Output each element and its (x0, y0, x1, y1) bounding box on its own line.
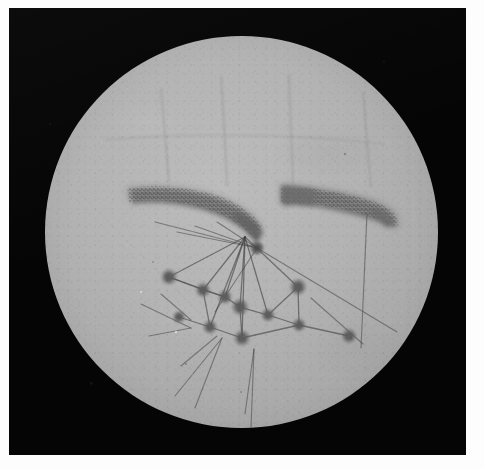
node-core (344, 331, 353, 340)
network-node (196, 283, 210, 297)
photographic-plate-figure (0, 0, 484, 469)
node-core (206, 323, 215, 332)
node-core (175, 313, 183, 321)
circular-field-of-view (45, 36, 438, 428)
photographic-black-field (9, 8, 466, 455)
network-node (161, 269, 177, 285)
filament-hub-node (251, 242, 264, 255)
network-node (232, 299, 248, 315)
network-edge (242, 325, 299, 338)
node-core (237, 333, 247, 343)
field-contents-drawing (45, 36, 438, 428)
network-node (261, 308, 274, 321)
node-core (295, 321, 303, 329)
network-node (234, 330, 250, 346)
faint-striation-lines (161, 74, 371, 188)
node-core (198, 285, 207, 294)
node-core (293, 282, 303, 292)
network-node (292, 318, 305, 331)
network-edge (299, 325, 349, 336)
faint-horizontal-striation (105, 135, 385, 144)
network-node (342, 329, 356, 343)
node-core (164, 272, 174, 282)
network-edge (203, 237, 245, 290)
node-core (235, 302, 245, 312)
network-node (203, 320, 217, 334)
network-node (290, 279, 306, 295)
node-core (221, 293, 230, 302)
network-node (218, 290, 232, 304)
dark-band-right (271, 176, 411, 246)
node-core (264, 311, 272, 319)
network-node (173, 311, 185, 323)
